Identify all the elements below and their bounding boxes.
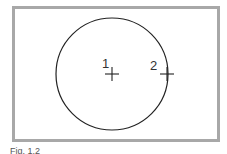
edge-cross-icon [160, 67, 174, 81]
point-2-label: 2 [150, 58, 157, 73]
figure-caption: Fig. 1.2 [10, 146, 40, 154]
point-1-label: 1 [102, 56, 109, 71]
circle-diagram: 1 2 [0, 0, 227, 154]
